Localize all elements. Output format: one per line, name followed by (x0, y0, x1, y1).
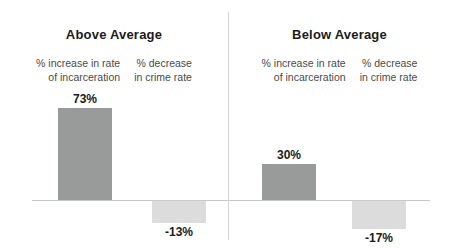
series-label-crime-rate-line2: in crime rate (134, 70, 192, 84)
bar-value-below-average-incarceration: 30% (262, 148, 316, 162)
bar-below-average-incarceration (262, 164, 316, 200)
series-label-crime-rate: % decrease in crime rate (360, 56, 418, 84)
series-label-crime-rate-line1: % decrease (136, 57, 191, 69)
zero-baseline (32, 200, 430, 201)
series-label-incarceration: % increase in rate of incarceration (262, 56, 346, 84)
bar-below-average-crime-rate (352, 201, 406, 229)
series-label-incarceration-line1: % increase in rate (262, 57, 346, 69)
series-label-crime-rate-line2: in crime rate (360, 70, 418, 84)
series-label-incarceration-line2: of incarceration (36, 70, 120, 84)
series-label-incarceration-line2: of incarceration (262, 70, 346, 84)
panel-above-average: Above Average % increase in rate of inca… (0, 0, 228, 249)
panel-title-above-average: Above Average (0, 27, 228, 42)
bar-chart: Above Average % increase in rate of inca… (0, 0, 451, 249)
bar-value-below-average-crime-rate: -17% (352, 231, 406, 245)
panel-below-average: Below Average % increase in rate of inca… (228, 0, 451, 249)
series-label-crime-rate: % decrease in crime rate (134, 56, 192, 84)
panel-title-below-average: Below Average (228, 27, 451, 42)
panel-divider (228, 12, 229, 240)
series-label-crime-rate-line1: % decrease (362, 57, 417, 69)
series-label-incarceration: % increase in rate of incarceration (36, 56, 120, 84)
series-label-incarceration-line1: % increase in rate (36, 57, 120, 69)
bar-above-average-incarceration (58, 108, 112, 200)
bar-value-above-average-crime-rate: -13% (152, 225, 206, 239)
series-labels-below-average: % increase in rate of incarceration % de… (228, 56, 451, 84)
bar-value-above-average-incarceration: 73% (58, 92, 112, 106)
bar-above-average-crime-rate (152, 201, 206, 223)
series-labels-above-average: % increase in rate of incarceration % de… (0, 56, 228, 84)
